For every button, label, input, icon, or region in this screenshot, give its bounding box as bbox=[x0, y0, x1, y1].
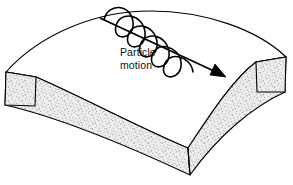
particle-motion-label: Particle motion bbox=[120, 46, 156, 71]
label-line-1: Particle bbox=[120, 46, 156, 58]
label-line-2: motion bbox=[120, 59, 152, 71]
particle-motion-figure: Particle motion bbox=[0, 0, 293, 185]
diagram-canvas: Particle motion bbox=[0, 0, 293, 185]
